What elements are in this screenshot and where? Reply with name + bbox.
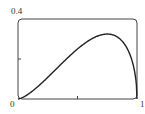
data-curve xyxy=(18,34,137,99)
plot-frame xyxy=(18,19,137,99)
plot-area xyxy=(0,0,145,114)
